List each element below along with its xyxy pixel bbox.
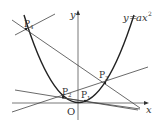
label-p1-sub: 1 (87, 95, 91, 101)
origin-label: O (67, 106, 75, 117)
point-p1 (84, 100, 86, 102)
point-p3 (104, 82, 106, 84)
line-p4-p3 (12, 20, 140, 108)
curve-label: y = a x 2 (122, 10, 152, 23)
line-p2-p3 (12, 67, 148, 112)
label-p2: P 2 (62, 87, 72, 98)
curve-label-exponent: 2 (148, 10, 152, 17)
label-p2-sub: 2 (68, 92, 72, 98)
parabola-curve (24, 15, 134, 103)
label-p4-sub: 4 (30, 24, 34, 30)
label-p4: P 4 (24, 19, 34, 30)
y-axis-arrow-icon (76, 10, 80, 15)
label-p3-sub: 3 (105, 75, 109, 81)
label-p3: P 3 (99, 70, 109, 81)
label-p1: P 1 (81, 90, 91, 101)
x-axis-label: x (146, 104, 152, 115)
parabola-diagram: y x O y = a x 2 P 4 P 3 P 2 P 1 (0, 0, 159, 124)
curve-label-y: y (122, 12, 129, 23)
y-axis-label: y (69, 9, 76, 20)
line-through-p4-tangent (15, 14, 55, 35)
